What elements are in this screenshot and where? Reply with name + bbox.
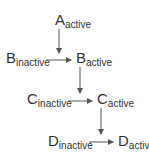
node-b-active: Bactive	[76, 50, 112, 66]
node-state: active	[129, 140, 149, 151]
node-state: active	[65, 19, 91, 30]
node-state: active	[86, 57, 112, 68]
node-d-active: Dactive	[118, 133, 149, 149]
node-c-inactive: Cinactive	[27, 91, 72, 107]
node-state: inactive	[38, 98, 72, 109]
node-state: inactive	[59, 140, 93, 151]
node-state: active	[108, 98, 134, 109]
node-letter: D	[48, 132, 59, 149]
node-state: inactive	[16, 57, 50, 68]
node-letter: B	[76, 49, 86, 66]
node-a-active: Aactive	[55, 12, 91, 28]
node-d-inactive: Dinactive	[48, 133, 93, 149]
node-letter: D	[118, 132, 129, 149]
node-letter: C	[27, 90, 38, 107]
node-b-inactive: Binactive	[6, 50, 50, 66]
node-letter: C	[97, 90, 108, 107]
node-c-active: Cactive	[97, 91, 134, 107]
node-letter: A	[55, 11, 65, 28]
node-letter: B	[6, 49, 16, 66]
